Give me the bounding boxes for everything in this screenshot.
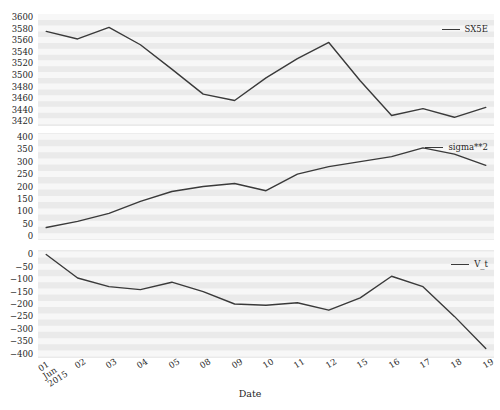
chart-svg-panel-2 bbox=[38, 250, 494, 358]
x-tick-day: 09 bbox=[229, 356, 243, 370]
x-axis-ticks: 01Jun20150203040508091011121516171819 bbox=[0, 360, 500, 410]
y-axis-ticks-panel-1: 400350300250200150100500 bbox=[0, 133, 36, 240]
y-tick-label: 350 bbox=[17, 145, 33, 154]
figure: 3600358035603540352035003480346034403420… bbox=[0, 0, 500, 410]
y-tick-label: 3480 bbox=[12, 82, 33, 91]
x-tick-day: 02 bbox=[72, 356, 86, 370]
x-tick-label: 08 bbox=[199, 357, 213, 370]
y-tick-label: −300 bbox=[10, 325, 33, 334]
y-tick-label: 300 bbox=[17, 157, 33, 166]
x-tick-day: 08 bbox=[198, 356, 212, 370]
x-tick-label: 10 bbox=[261, 357, 275, 370]
y-tick-label: 3460 bbox=[12, 94, 33, 103]
y-axis-ticks-panel-2: 0−50−100−150−200−250−300−350−400 bbox=[0, 250, 36, 358]
y-tick-label: 3600 bbox=[12, 13, 33, 22]
y-tick-label: 400 bbox=[17, 132, 33, 141]
legend-panel-1[interactable]: sigma**2 bbox=[425, 142, 488, 152]
x-tick-label: 12 bbox=[324, 357, 338, 370]
legend-line-icon bbox=[442, 29, 460, 30]
legend-label-sx5e: SX5E bbox=[465, 24, 489, 34]
y-tick-label: 3500 bbox=[12, 71, 33, 80]
x-tick-day: 10 bbox=[261, 356, 275, 370]
x-tick-label: 01Jun2015 bbox=[37, 354, 70, 388]
x-tick-label: 09 bbox=[230, 357, 244, 370]
legend-line-icon bbox=[451, 264, 469, 265]
x-tick-day: 17 bbox=[418, 356, 432, 370]
x-tick-day: 05 bbox=[167, 356, 181, 370]
x-tick-day: 04 bbox=[135, 356, 149, 370]
legend-panel-0[interactable]: SX5E bbox=[442, 24, 489, 34]
panel-vt: 0−50−100−150−200−250−300−350−400 V_t bbox=[0, 250, 500, 358]
y-tick-label: −100 bbox=[10, 275, 33, 284]
chart-svg-panel-0 bbox=[38, 14, 494, 126]
y-tick-label: 100 bbox=[17, 207, 33, 216]
legend-label-vt: V_t bbox=[474, 259, 488, 269]
y-tick-label: −150 bbox=[10, 287, 33, 296]
x-tick-label: 19 bbox=[481, 357, 495, 370]
legend-line-icon bbox=[425, 147, 443, 148]
x-tick-day: 19 bbox=[481, 356, 495, 370]
x-tick-day: 15 bbox=[355, 356, 369, 370]
x-tick-label: 03 bbox=[104, 357, 118, 370]
y-tick-label: 3560 bbox=[12, 36, 33, 45]
panel-sx5e: 3600358035603540352035003480346034403420… bbox=[0, 14, 500, 126]
y-tick-label: −400 bbox=[10, 349, 33, 358]
y-tick-label: 3420 bbox=[12, 117, 33, 126]
x-tick-day: 16 bbox=[386, 356, 400, 370]
legend-panel-2[interactable]: V_t bbox=[451, 259, 488, 269]
x-tick-day: 11 bbox=[292, 356, 306, 370]
x-tick-label: 16 bbox=[387, 357, 401, 370]
y-tick-label: −200 bbox=[10, 300, 33, 309]
y-axis-ticks-panel-0: 3600358035603540352035003480346034403420 bbox=[0, 14, 36, 126]
y-tick-label: −350 bbox=[10, 337, 33, 346]
y-tick-label: 3520 bbox=[12, 59, 33, 68]
y-tick-label: 50 bbox=[22, 220, 33, 229]
legend-label-sigma2: sigma**2 bbox=[448, 142, 488, 152]
y-tick-label: −50 bbox=[15, 263, 33, 272]
y-tick-label: 0 bbox=[28, 250, 33, 259]
x-tick-label: 15 bbox=[356, 357, 370, 370]
x-tick-day: 12 bbox=[324, 356, 338, 370]
x-tick-day: 03 bbox=[104, 356, 118, 370]
x-tick-label: 17 bbox=[418, 357, 432, 370]
x-tick-label: 05 bbox=[167, 357, 181, 370]
y-tick-label: −250 bbox=[10, 312, 33, 321]
y-tick-label: 0 bbox=[28, 232, 33, 241]
y-tick-label: 3540 bbox=[12, 47, 33, 56]
y-tick-label: 3440 bbox=[12, 106, 33, 115]
y-tick-label: 150 bbox=[17, 195, 33, 204]
x-axis-label: Date bbox=[0, 388, 500, 399]
plot-area-panel-2 bbox=[38, 250, 494, 358]
x-tick-label: 18 bbox=[450, 357, 464, 370]
y-tick-label: 250 bbox=[17, 170, 33, 179]
x-tick-label: 04 bbox=[136, 357, 150, 370]
y-tick-label: 200 bbox=[17, 182, 33, 191]
x-tick-label: 02 bbox=[73, 357, 87, 370]
x-tick-label: 11 bbox=[293, 357, 307, 370]
x-tick-day: 18 bbox=[449, 356, 463, 370]
plot-area-panel-0 bbox=[38, 14, 494, 126]
panel-sigma2: 400350300250200150100500 sigma**2 bbox=[0, 133, 500, 240]
y-tick-label: 3580 bbox=[12, 24, 33, 33]
